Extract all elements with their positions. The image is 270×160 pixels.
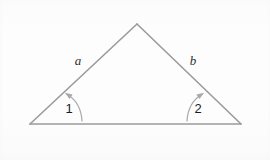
triangle-left-leg [30,24,137,124]
angle-label-1: 1 [65,101,72,116]
triangle-diagram-svg: a b 1 2 [0,0,270,160]
side-label-b: b [190,53,197,68]
side-label-a: a [75,53,82,68]
geometry-figure: a b 1 2 [0,0,270,160]
angle-label-2: 2 [194,101,201,116]
